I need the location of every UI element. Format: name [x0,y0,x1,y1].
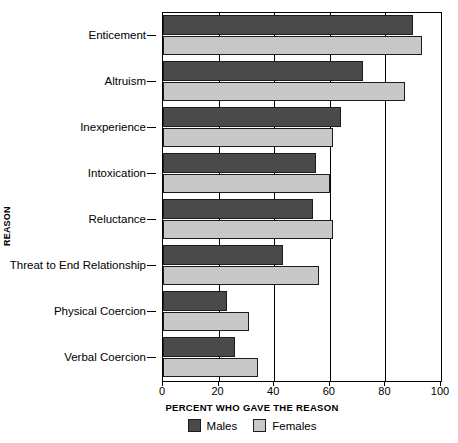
category-tick [147,311,156,312]
bar-females [163,174,330,193]
bar-females [163,312,249,331]
category-label: Enticement [88,12,146,58]
bar-males [163,61,363,81]
category-label-column: EnticementAltruismInexperienceIntoxicati… [0,12,156,380]
legend-item-females: Females [253,419,316,432]
bar-males [163,291,227,311]
category-tick [147,173,156,174]
legend-item-males: Males [188,419,238,432]
category-label: Physical Coercion [54,288,146,334]
bar-group [163,105,441,151]
legend-swatch-males [188,419,201,432]
category-label: Intoxication [88,150,146,196]
bar-females [163,358,258,377]
bar-females [163,220,333,239]
x-tick-label: 0 [159,385,165,397]
x-tick-label: 100 [431,385,449,397]
bar-group [163,243,441,289]
legend-swatch-females [253,419,266,432]
x-tick-label: 80 [378,385,390,397]
bar-group [163,289,441,335]
bar-group [163,151,441,197]
category-tick [147,81,156,82]
x-tick-label: 60 [323,385,335,397]
bar-females [163,82,405,101]
category-tick [147,127,156,128]
bar-females [163,266,319,285]
legend-label: Females [272,420,316,432]
category-label: Inexperience [80,104,146,150]
x-axis-title: PERCENT WHO GAVE THE REASON [0,402,458,413]
category-tick [147,357,156,358]
bar-group [163,197,441,243]
x-axis-tick-labels: 020406080100 [162,385,440,401]
bar-males [163,107,341,127]
bar-males [163,245,283,265]
category-tick [147,265,156,266]
plot-area [162,12,442,382]
plot-inner [163,13,441,381]
x-tick-label: 40 [267,385,279,397]
x-tick-label: 20 [211,385,223,397]
category-tick [147,219,156,220]
category-label: Threat to End Relationship [10,242,146,288]
bar-males [163,199,313,219]
bar-group [163,13,441,59]
bar-females [163,128,333,147]
bar-females [163,36,422,55]
legend-label: Males [207,420,238,432]
bar-males [163,15,413,35]
bar-group [163,335,441,381]
bar-males [163,153,316,173]
bar-males [163,337,235,357]
category-tick [147,35,156,36]
category-label: Reluctance [88,196,146,242]
category-label: Altruism [104,58,146,104]
category-label: Verbal Coercion [64,334,146,380]
chart-legend: MalesFemales [0,419,458,432]
bar-group [163,59,441,105]
chart-figure: REASON EnticementAltruismInexperienceInt… [0,0,458,443]
